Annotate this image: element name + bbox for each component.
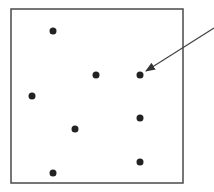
diagram-canvas	[0, 0, 214, 192]
target-dot	[137, 72, 144, 79]
dot	[50, 170, 57, 177]
dot	[72, 126, 79, 133]
pointer-arrow	[146, 28, 214, 71]
dot	[137, 115, 144, 122]
dot	[29, 93, 36, 100]
dot-group	[29, 28, 144, 177]
dot	[93, 72, 100, 79]
square-frame	[11, 9, 183, 183]
dot	[137, 159, 144, 166]
dot	[50, 28, 57, 35]
